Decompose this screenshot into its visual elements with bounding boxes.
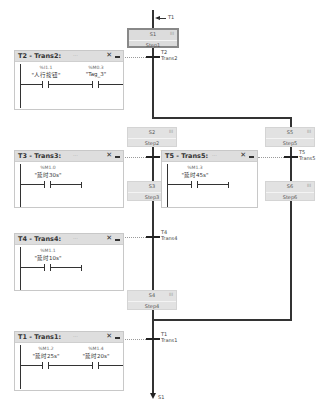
contact-symbol: "延时10s" xyxy=(28,254,68,262)
no-contact-icon[interactable] xyxy=(42,81,49,88)
contact-address: %M1.1 xyxy=(28,248,68,253)
power-rail xyxy=(20,64,21,108)
rung-wire xyxy=(99,365,123,366)
main-sequence-line xyxy=(152,48,154,117)
minimize-icon[interactable] xyxy=(115,239,120,241)
transition-t2[interactable] xyxy=(146,56,160,58)
main-sequence-line-top xyxy=(152,10,154,28)
contact-symbol: "延时20s" xyxy=(76,352,116,360)
step-name: Step4 xyxy=(128,301,176,309)
branch-right-line xyxy=(290,117,292,127)
close-icon[interactable]: ✕ xyxy=(106,234,112,242)
close-icon[interactable]: ✕ xyxy=(106,51,112,59)
transition-panel-t2[interactable]: T2 - Trans2: ... ✕ %I1.1 "人行按钮" %M0.3 "T… xyxy=(14,50,124,110)
alternative-merge-line xyxy=(152,319,292,321)
panel-header[interactable]: T3 - Trans3: ... ✕ xyxy=(15,151,123,162)
step-name: Step6 xyxy=(266,192,314,200)
contact-symbol: "延时45s" xyxy=(175,171,215,179)
close-icon[interactable]: ✕ xyxy=(240,151,246,159)
contact-symbol: "延时25s" xyxy=(26,352,66,360)
panel-header[interactable]: T1 - Trans1: ... ✕ xyxy=(15,332,123,343)
step-action-icon: III xyxy=(169,292,173,297)
close-icon[interactable]: ✕ xyxy=(106,151,112,159)
jump-out-arrow-icon xyxy=(150,393,156,399)
no-contact-icon[interactable] xyxy=(191,181,198,188)
transition-t1[interactable] xyxy=(146,338,160,340)
rung-end xyxy=(81,265,82,271)
transition-t3[interactable] xyxy=(146,156,160,158)
minimize-icon[interactable] xyxy=(249,156,254,158)
minimize-icon[interactable] xyxy=(115,337,120,339)
rung-wire xyxy=(167,184,191,185)
panel-dots: ... xyxy=(73,234,78,240)
branch-right-line xyxy=(290,201,292,320)
step-s6[interactable]: S6 III Step6 xyxy=(265,181,315,201)
no-contact-icon[interactable] xyxy=(92,81,99,88)
rung-wire xyxy=(51,267,81,268)
rung-wire xyxy=(20,84,42,85)
rung-end xyxy=(228,182,229,188)
panel-title: T5 - Trans5: xyxy=(165,152,208,160)
step-action-icon: III xyxy=(307,183,311,188)
panel-title: T4 - Trans4: xyxy=(18,235,61,243)
transition-panel-t3[interactable]: T3 - Trans3: ... ✕ %M1.0 "延时30s" xyxy=(14,150,124,208)
step-s1[interactable]: S1 III Step1 xyxy=(127,28,179,48)
main-sequence-line xyxy=(152,147,154,181)
panel-title: T2 - Trans2: xyxy=(18,52,61,60)
panel-title: T3 - Trans3: xyxy=(18,152,61,160)
transition-panel-t5[interactable]: T5 - Trans5: ... ✕ %M1.3 "延时45s" xyxy=(161,150,258,208)
step-name: Step2 xyxy=(128,138,176,146)
panel-dots: ... xyxy=(73,51,78,57)
main-sequence-line xyxy=(152,201,154,290)
step-s4[interactable]: S4 III Step4 xyxy=(127,290,177,310)
rung-end xyxy=(81,182,82,188)
contact-address: %I1.1 xyxy=(26,65,66,70)
panel-header[interactable]: T5 - Trans5: ... ✕ xyxy=(162,151,257,162)
transition-name: Trans4 xyxy=(161,236,177,242)
close-icon[interactable]: ✕ xyxy=(106,332,112,340)
transition-panel-t4[interactable]: T4 - Trans4: ... ✕ %M1.1 "延时10s" xyxy=(14,233,124,291)
rung-wire xyxy=(99,84,123,85)
panel-connector xyxy=(123,237,146,238)
transition-t2-label: T2 Trans2 xyxy=(161,50,177,61)
no-contact-icon[interactable] xyxy=(44,181,51,188)
rung-wire xyxy=(49,84,92,85)
contact-address: %M0.3 xyxy=(76,65,116,70)
transition-panel-t1[interactable]: T1 - Trans1: ... ✕ %M1.2 "延时25s" %M1.4 "… xyxy=(14,331,124,391)
step-s2[interactable]: S2 III Step2 xyxy=(127,127,177,147)
rung-wire xyxy=(49,365,92,366)
transition-t4[interactable] xyxy=(146,236,160,238)
panel-header[interactable]: T2 - Trans2: ... ✕ xyxy=(15,51,123,62)
panel-dots: ... xyxy=(73,151,78,157)
no-contact-icon[interactable] xyxy=(92,362,99,369)
step-s5[interactable]: S5 III Step5 xyxy=(265,127,315,147)
jump-in-line xyxy=(158,18,166,20)
minimize-icon[interactable] xyxy=(115,156,120,158)
panel-dots: ... xyxy=(73,332,78,338)
panel-connector xyxy=(123,339,146,340)
panel-connector xyxy=(123,157,146,158)
contact-symbol: "延时30s" xyxy=(28,171,68,179)
step-action-icon: III xyxy=(169,129,173,134)
minimize-icon[interactable] xyxy=(115,56,120,58)
rung-wire xyxy=(20,184,44,185)
main-sequence-line xyxy=(152,310,154,395)
contact-address: %M1.2 xyxy=(26,346,66,351)
power-rail xyxy=(20,247,21,290)
power-rail xyxy=(167,164,168,207)
transition-t5[interactable] xyxy=(284,156,298,158)
rung-wire xyxy=(198,184,228,185)
jump-out-label: S1 xyxy=(158,395,164,401)
contact-address: %M1.0 xyxy=(28,165,68,170)
step-action-icon: III xyxy=(170,31,174,36)
step-name: Step5 xyxy=(266,138,314,146)
no-contact-icon[interactable] xyxy=(44,264,51,271)
power-rail xyxy=(20,164,21,207)
rung-wire xyxy=(20,267,44,268)
panel-connector xyxy=(123,57,146,58)
power-rail xyxy=(20,345,21,389)
no-contact-icon[interactable] xyxy=(42,362,49,369)
panel-title: T1 - Trans1: xyxy=(18,333,61,341)
panel-header[interactable]: T4 - Trans4: ... ✕ xyxy=(15,234,123,245)
branch-right-line xyxy=(290,147,292,181)
